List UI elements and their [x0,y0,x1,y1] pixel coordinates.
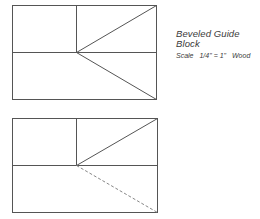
drawing-caption: Beveled Guide Block Scale 1/4" = 1" Wood [176,29,260,59]
scale-label: Scale [176,52,194,59]
bottom-block-drawing [13,119,158,213]
scale-value: 1/4" = 1" [199,52,226,59]
drawing-title: Beveled Guide Block [176,29,260,48]
top-block-drawing [13,6,157,100]
scale-line: Scale 1/4" = 1" Wood [176,52,260,59]
bottom-block-upper-bevel [77,119,158,166]
top-block-upper-bevel [77,6,157,53]
bottom-block-hidden-bevel [77,166,158,213]
material-label: Wood [232,52,250,59]
top-block-lower-bevel [77,53,157,100]
